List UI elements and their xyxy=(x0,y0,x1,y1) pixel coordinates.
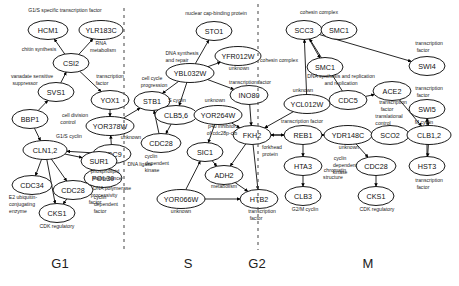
node-yor378w[interactable]: YOR378W xyxy=(86,117,134,136)
edge-sic1-to-adh2 xyxy=(212,161,217,167)
node-clb3[interactable]: CLB3 xyxy=(285,187,321,206)
annotation-ann-tf-ino80: transcription factor xyxy=(229,79,271,85)
node-shape-ylr183c xyxy=(79,21,123,40)
node-hta3[interactable]: HTA3 xyxy=(284,157,322,176)
phase-label-s: S xyxy=(184,256,193,271)
node-hcm1[interactable]: HCM1 xyxy=(28,21,68,40)
annotation-ann-rna-metab-2: metabolism xyxy=(90,47,116,53)
node-swi4[interactable]: SWI4 xyxy=(409,57,445,76)
node-shape-cdc5 xyxy=(329,91,367,110)
edge-fkh2-to-adh2 xyxy=(230,144,245,166)
node-shape-swi5 xyxy=(409,100,445,119)
edge-swi5-to-clb12 xyxy=(428,118,429,125)
annotation-ann-g1s-tf: G1/S specific transcription factor xyxy=(28,7,102,13)
annotation-ann-cohesin-left: cohesin complex xyxy=(260,57,298,63)
node-ybl032w[interactable]: YBL032W xyxy=(166,64,214,83)
node-hst3[interactable]: HST3 xyxy=(409,157,445,176)
edge-clb12-to-hst3 xyxy=(428,145,429,157)
node-smc1[interactable]: SMC1 xyxy=(307,58,343,77)
node-adh2[interactable]: ADH2 xyxy=(205,166,243,185)
node-sco2[interactable]: SCO2 xyxy=(371,126,409,145)
node-shape-reb1 xyxy=(284,126,322,145)
edge-svs1-to-csi2 xyxy=(61,72,67,83)
edge-ino80-to-fkh2 xyxy=(250,104,252,125)
node-shape-sic1 xyxy=(187,143,223,162)
node-svs1[interactable]: SVS1 xyxy=(38,83,74,102)
node-yor066w[interactable]: YOR066W xyxy=(157,190,205,209)
node-shape-cdc34 xyxy=(12,176,52,195)
node-htb2[interactable]: HTB2 xyxy=(240,190,278,209)
node-csi2[interactable]: CSI2 xyxy=(53,54,89,73)
node-ycl012w[interactable]: YCL012W xyxy=(284,95,330,114)
node-cks1_g1[interactable]: CKS1 xyxy=(39,204,75,223)
node-shape-htb2 xyxy=(240,190,278,209)
node-shape-scc3 xyxy=(286,21,322,40)
annotation-ann-tf-ace2-2: factor xyxy=(381,106,394,112)
phase-label-m: M xyxy=(363,256,374,271)
node-cdc5[interactable]: CDC5 xyxy=(329,91,367,110)
edge-csi2-to-hcm1 xyxy=(54,39,65,54)
annotation-ann-cyc-dep-m-2: dependent xyxy=(333,162,358,168)
node-sic1[interactable]: SIC1 xyxy=(187,143,223,162)
edge-cdc5-to-ace2 xyxy=(366,95,375,97)
node-ace2[interactable]: ACE2 xyxy=(373,82,411,101)
node-cdc34[interactable]: CDC34 xyxy=(12,176,52,195)
annotation-ann-forkhead-1: forkhead xyxy=(262,144,282,150)
annotation-ann-chromatin-2: structure xyxy=(323,174,343,180)
annotation-ann-nuclear-cap: nuclear cap-binding protein xyxy=(185,10,247,16)
node-shape-sur1 xyxy=(81,152,117,171)
node-ino80[interactable]: INO80 xyxy=(230,86,268,105)
node-yor264w[interactable]: YOR264W xyxy=(194,106,242,125)
node-swi5[interactable]: SWI5 xyxy=(409,100,445,119)
node-sto1[interactable]: STO1 xyxy=(196,22,232,41)
annotation-ann-celldiv-1: cell division xyxy=(62,112,88,118)
annotation-ann-s-cyclin: S cyclin xyxy=(168,97,186,103)
node-cdc28_s[interactable]: CDC28 xyxy=(141,134,181,153)
node-yox1[interactable]: YOX1 xyxy=(91,91,129,110)
annotation-ann-transl-1: translational xyxy=(375,113,402,119)
node-shape-ycl012w xyxy=(284,95,330,114)
node-scc3[interactable]: SCC3 xyxy=(286,21,322,40)
annotation-ann-tf-swi5-1: transcription xyxy=(415,85,443,91)
annotation-ann-vanadate-1: vanadate sensitive xyxy=(11,73,53,79)
node-shape-cdc28_m xyxy=(356,157,396,176)
annotation-ann-tf-yox1-1: transcription xyxy=(96,73,124,79)
node-bbp1[interactable]: BBP1 xyxy=(12,110,48,129)
node-pol30[interactable]: POL30 xyxy=(84,169,122,188)
node-reb1[interactable]: REB1 xyxy=(284,126,322,145)
node-fkh2[interactable]: FKH2 xyxy=(233,126,271,145)
node-shape-svs1 xyxy=(38,83,74,102)
annotation-ann-forkhead-2: protein xyxy=(262,151,278,157)
node-cdc28_m[interactable]: CDC28 xyxy=(356,157,396,176)
node-sur1[interactable]: SUR1 xyxy=(81,152,117,171)
edge-scc3-to-smc1 xyxy=(309,39,320,58)
annotation-ann-unknown-ycl012: unknown xyxy=(293,87,314,93)
annotation-ann-tf-htb2-1: transcription xyxy=(248,208,276,214)
node-ydr148c[interactable]: YDR148C xyxy=(324,126,372,145)
edge-ycl012w-to-scc3 xyxy=(304,40,306,95)
annotation-ann-dna-ligase: DNA ligase xyxy=(127,161,152,167)
annotation-ann-unknown-yor264: unknown xyxy=(205,97,226,103)
node-shape-ace2 xyxy=(373,82,411,101)
nodes-layer: HCM1YLR183CCSI2SVS1BBP1CLN1,2CDC34CDC28C… xyxy=(12,21,451,223)
node-shape-yfr012w xyxy=(215,47,261,66)
edge-cdc9-to-yor378w xyxy=(111,136,112,145)
node-shape-sco2 xyxy=(371,126,409,145)
node-shape-cks1_g1 xyxy=(39,204,75,223)
annotation-ann-ccprog-2: progression xyxy=(141,82,168,88)
node-shape-adh2 xyxy=(205,166,243,185)
node-smc1_top[interactable]: SMC1 xyxy=(321,21,357,40)
node-shape-cks1_m xyxy=(358,187,394,206)
node-cln12[interactable]: CLN1,2 xyxy=(23,141,67,160)
annotation-ann-cdk-reg-g1: CDK regulatory xyxy=(40,223,75,229)
node-clb12[interactable]: CLB1,2 xyxy=(407,126,451,145)
node-cks1_m[interactable]: CKS1 xyxy=(358,187,394,206)
annotation-ann-dnarep-2: and replication xyxy=(324,80,357,86)
node-yfr012w[interactable]: YFR012W xyxy=(215,47,261,66)
annotation-ann-tf-hst3-1: transcription xyxy=(415,177,443,183)
annotation-ann-tf-reb1: transcription factor xyxy=(281,118,323,124)
node-ylr183c[interactable]: YLR183C xyxy=(79,21,123,40)
annotation-ann-cohesin-top: cohesin complex xyxy=(300,9,338,15)
node-shape-hta3 xyxy=(284,157,322,176)
node-clb56[interactable]: CLB5,6 xyxy=(155,106,197,125)
